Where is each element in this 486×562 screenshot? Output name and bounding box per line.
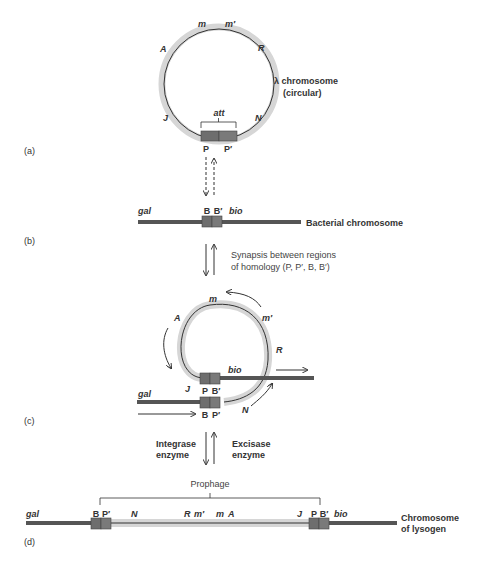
integrase-label-1: Integrase: [156, 439, 196, 449]
panel-b: gal B B′ bio Bacterial chromosome (b): [24, 206, 403, 246]
synapsis-arrows: Synapsis between regions of homology (P,…: [206, 244, 337, 275]
site-P-box: [201, 131, 219, 141]
lower-site-B-label: B: [202, 410, 209, 420]
gene-m: m: [209, 294, 217, 304]
bacterial-chromosome-label: Bacterial chromosome: [306, 218, 403, 228]
gene-J: J: [297, 509, 303, 519]
integrase-excisase-arrows: Integrase enzyme Excisase enzyme: [156, 432, 271, 464]
integrase-label-2: enzyme: [156, 450, 189, 460]
gene-A: A: [173, 313, 181, 323]
gene-R: R: [258, 43, 265, 53]
gene-A: A: [227, 509, 235, 519]
synapsis-label-1: Synapsis between regions: [231, 250, 337, 260]
panel-a-label: (a): [24, 146, 35, 156]
panel-d: Prophage gal B P′ N R m′ m A J P B′ bio …: [24, 479, 459, 547]
gene-m-prime: m′: [262, 313, 273, 323]
dashed-arrows-a-b: [206, 157, 214, 195]
synapsis-label-2: of homology (P, P′, B, B′): [231, 262, 330, 272]
gene-m-prime: m′: [225, 19, 236, 29]
lambda-integration-diagram: att P P′ m m′ A R J N λ chromosome (circ…: [0, 0, 486, 562]
gene-bio: bio: [229, 206, 243, 216]
rotate-arrow-left: [164, 328, 171, 368]
lower-site-B-box: [200, 397, 210, 408]
gene-R: R: [184, 509, 191, 519]
left-site-B-label: B: [93, 509, 100, 519]
excisase-label-2: enzyme: [232, 450, 265, 460]
bio-strand: [329, 521, 397, 525]
upper-site-B-prime-box: [210, 373, 220, 384]
gal-strand: [26, 521, 91, 525]
gene-gal: gal: [137, 206, 152, 216]
left-site-P-prime-box: [101, 518, 111, 529]
lysogen-label-1: Chromosome: [401, 513, 459, 523]
att-bracket: [201, 118, 236, 128]
att-label: att: [214, 108, 226, 118]
gene-m-prime: m′: [194, 509, 205, 519]
gene-gal: gal: [25, 509, 40, 519]
upper-site-P-label: P: [202, 386, 208, 396]
gene-J: J: [185, 384, 191, 394]
site-P-prime-box: [219, 131, 237, 141]
phage-loop-shell: [181, 304, 268, 402]
site-B-prime-box: [212, 216, 222, 227]
lower-site-P-prime-label: P′: [212, 410, 220, 420]
excisase-label-1: Excisase: [232, 439, 271, 449]
gene-bio: bio: [334, 509, 348, 519]
gene-m: m: [198, 19, 206, 29]
site-B-label: B: [204, 206, 211, 216]
gene-A: A: [159, 44, 167, 54]
lysogen-label-2: of lysogen: [401, 524, 446, 534]
gene-N: N: [255, 113, 262, 123]
lambda-chromosome-label: λ chromosome: [274, 76, 338, 86]
panel-a: att P P′ m m′ A R J N λ chromosome (circ…: [24, 19, 338, 156]
site-P-label: P: [203, 144, 209, 154]
gene-N: N: [242, 405, 249, 415]
upper-site-B-prime-label: B′: [212, 386, 221, 396]
left-site-P-prime-label: P′: [102, 509, 110, 519]
gene-gal: gal: [137, 389, 152, 399]
lower-site-P-prime-box: [210, 397, 220, 408]
site-B-prime-label: B′: [214, 206, 223, 216]
panel-d-label: (d): [24, 537, 35, 547]
prophage-label: Prophage: [190, 479, 229, 489]
site-B-box: [202, 216, 212, 227]
right-site-P-label: P: [311, 509, 317, 519]
gene-bio: bio: [228, 365, 242, 375]
panel-b-label: (b): [24, 236, 35, 246]
right-site-B-prime-box: [319, 518, 329, 529]
gene-m: m: [216, 509, 224, 519]
gene-R: R: [276, 345, 283, 355]
lower-gal-strand: [137, 400, 202, 404]
panel-c-label: (c): [24, 416, 35, 426]
upper-bio-strand: [220, 376, 314, 380]
circular-label: (circular): [283, 88, 322, 98]
site-P-prime-label: P′: [224, 144, 232, 154]
prophage-bracket: [100, 493, 320, 505]
panel-c: P B′ B P′ m m′ A R J N gal bio (c): [24, 292, 314, 426]
gene-N: N: [131, 509, 138, 519]
left-site-B-box: [91, 518, 101, 529]
right-site-B-prime-label: B′: [320, 509, 329, 519]
right-site-P-box: [309, 518, 319, 529]
upper-site-P-box: [200, 373, 210, 384]
